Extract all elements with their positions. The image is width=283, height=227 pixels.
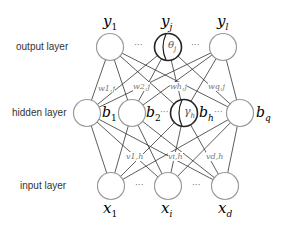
label-bq: bq bbox=[256, 104, 271, 123]
hidden-layer-label: hidden layer bbox=[12, 107, 66, 118]
ellipsis-input-1: ··· bbox=[135, 180, 144, 190]
label-b1: b1 bbox=[102, 104, 117, 123]
ellipsis-hidden-2: ··· bbox=[214, 107, 223, 117]
ellipsis-input-2: ··· bbox=[192, 180, 201, 190]
label-xd: xd bbox=[218, 199, 232, 219]
label-bh: bh bbox=[199, 104, 214, 123]
output-layer-label: output layer bbox=[16, 41, 68, 52]
weight-w2j: w2,j bbox=[133, 82, 150, 91]
weight-wqj: wq,j bbox=[208, 82, 225, 91]
label-b2: b2 bbox=[146, 104, 161, 123]
node-x1 bbox=[98, 173, 125, 200]
weight-w1j: w1,j bbox=[98, 84, 115, 93]
theta-j: θj bbox=[168, 39, 176, 53]
node-bq bbox=[227, 100, 254, 127]
node-b2 bbox=[119, 100, 146, 127]
input-layer-label: input layer bbox=[20, 180, 66, 191]
ellipsis-output-1: ··· bbox=[134, 40, 143, 50]
weight-vih: vi,h bbox=[168, 152, 183, 161]
node-b1 bbox=[74, 100, 101, 127]
weight-whj: wh,j bbox=[170, 82, 187, 91]
weight-v1h: v1,h bbox=[126, 152, 143, 161]
label-x1: x1 bbox=[103, 199, 117, 219]
label-yl: yl bbox=[217, 12, 228, 32]
node-xi bbox=[155, 173, 182, 200]
ellipsis-output-2: ··· bbox=[191, 40, 200, 50]
node-y1 bbox=[97, 34, 124, 61]
label-yj: yj bbox=[161, 12, 172, 32]
weight-vdh: vd,h bbox=[206, 152, 223, 161]
ellipsis-hidden-1: ··· bbox=[160, 107, 169, 117]
gamma-h: γh bbox=[184, 105, 195, 120]
label-y1: y1 bbox=[103, 12, 117, 32]
neural-network-diagram: output layer hidden layer input layer y1… bbox=[0, 0, 283, 227]
node-xd bbox=[212, 173, 239, 200]
node-yl bbox=[210, 34, 237, 61]
label-xi: xi bbox=[161, 199, 172, 219]
